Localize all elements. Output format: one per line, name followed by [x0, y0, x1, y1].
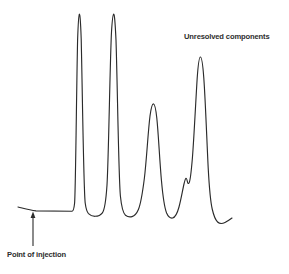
unresolved-components-label: Unresolved components: [184, 32, 269, 41]
plot-background: [0, 0, 289, 274]
chromatogram-figure: Unresolved components Point of injection: [0, 0, 289, 274]
chromatogram-plot: [0, 0, 289, 274]
point-of-injection-label: Point of injection: [7, 250, 66, 259]
